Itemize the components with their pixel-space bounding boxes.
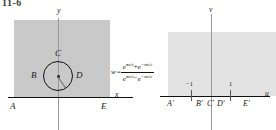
formula-num-term2: e−πz/c [138, 63, 153, 71]
formula-num-term1-exp: πz/c [126, 62, 134, 67]
formula-den-term2: e−πz/c [138, 75, 153, 83]
formula-numerator: eπz/c+e−πz/c [121, 62, 155, 71]
formula-den-term1-exp: πz/c [126, 73, 134, 78]
w-plane-point-label-D-prime: D′ [217, 100, 225, 108]
figure-conformal-mapping: 11-6 y x A B C D E w = eπz/c+e−πz/c e [0, 0, 276, 130]
formula-lhs: w [111, 68, 116, 76]
formula-den-term2-exp: −πz/c [141, 73, 152, 78]
formula-den-term1: eπz/c [123, 75, 134, 83]
formula-fraction: eπz/c+e−πz/c eπz/c−e−πz/c [121, 62, 155, 83]
w-plane-u-axis [160, 96, 270, 97]
w-plane-tick-label-plus-one: 1 [229, 81, 232, 88]
z-plane-point-label-B: B [31, 71, 37, 80]
z-plane-y-axis-label: y [57, 7, 61, 15]
w-plane-tick-label-minus-one: −1 [186, 81, 193, 88]
w-plane-v-axis-label: v [209, 6, 212, 14]
w-plane-shaded-region [168, 32, 276, 96]
formula-num-term1: eπz/c [123, 63, 134, 71]
z-plane-point-label-D: D [76, 71, 83, 80]
formula-denominator: eπz/c−e−πz/c [121, 73, 155, 82]
figure-number: 11-6 [2, 0, 22, 8]
z-plane-x-axis-label: x [115, 91, 119, 99]
w-plane-point-label-E-prime: E′ [243, 100, 250, 108]
w-plane-u-axis-label: u [265, 90, 269, 98]
z-plane-point-label-E: E [101, 102, 107, 111]
w-plane-point-label-A-prime: A′ [167, 100, 174, 108]
w-plane-point-label-B-prime: B′ [196, 100, 203, 108]
w-plane-point-label-C-prime: C′ [207, 100, 214, 108]
z-plane-point-label-C: C [55, 49, 61, 58]
w-plane-tick-minus-one [191, 90, 192, 101]
w-plane-v-axis [211, 14, 212, 130]
mapping-formula: w = eπz/c+e−πz/c eπz/c−e−πz/c [111, 62, 154, 83]
formula-num-term2-exp: −πz/c [141, 62, 152, 67]
z-plane-point-label-A: A [10, 102, 16, 111]
w-plane-tick-plus-one [230, 90, 231, 101]
